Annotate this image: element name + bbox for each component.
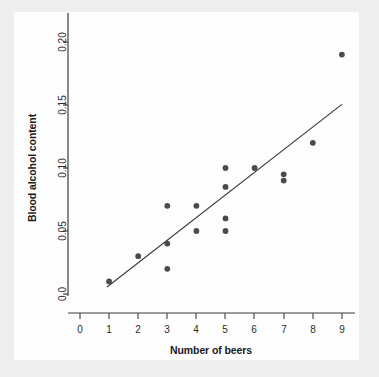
figure-container: 0.20 0.15 0.10 0.05 0.0 Blood alcohol co… [0, 0, 379, 377]
x-tick-label: 6 [251, 324, 257, 335]
x-tick-label: 0 [77, 324, 83, 335]
data-point [194, 228, 200, 234]
data-point [281, 171, 287, 177]
data-point [106, 279, 112, 285]
data-point [164, 241, 170, 247]
x-tick-label: 8 [310, 324, 316, 335]
y-tick-label: 0.10 [57, 158, 68, 178]
data-point [339, 52, 345, 58]
y-axis-title: Blood alcohol content [26, 113, 38, 222]
data-point [135, 253, 141, 259]
data-point [164, 266, 170, 272]
y-axis-tick-labels: 0.20 0.15 0.10 0.05 0.0 [57, 32, 68, 301]
data-point [310, 140, 316, 146]
x-tick-label: 3 [164, 324, 170, 335]
data-point [194, 203, 200, 209]
scatter-markers [106, 52, 345, 285]
data-point [164, 203, 170, 209]
x-tick-label: 9 [339, 324, 345, 335]
scatter-plot: 0.20 0.15 0.10 0.05 0.0 Blood alcohol co… [0, 0, 379, 377]
x-tick-label: 5 [222, 324, 228, 335]
x-axis-title: Number of beers [170, 344, 252, 356]
data-point [223, 184, 229, 190]
y-tick-label: 0.15 [57, 95, 68, 115]
x-tick-label: 4 [193, 324, 199, 335]
x-tick-label: 7 [281, 324, 287, 335]
data-point [223, 216, 229, 222]
data-point [252, 165, 258, 171]
y-tick-label: 0.0 [57, 287, 68, 301]
y-tick-label: 0.05 [57, 221, 68, 241]
x-tick-label: 1 [106, 324, 112, 335]
data-point [223, 165, 229, 171]
x-tick-label: 2 [135, 324, 141, 335]
regression-line [107, 104, 342, 287]
y-tick-label: 0.20 [57, 32, 68, 52]
data-point [223, 228, 229, 234]
x-axis-tick-labels: 0 1 2 3 4 5 6 7 8 9 [77, 324, 345, 335]
data-point [281, 178, 287, 184]
x-axis-ticks [80, 313, 342, 319]
